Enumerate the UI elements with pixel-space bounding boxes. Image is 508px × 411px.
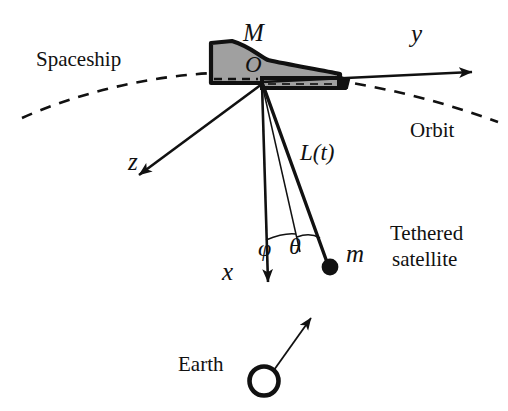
axis-x-label: x bbox=[222, 258, 233, 285]
angle-theta-label: θ bbox=[289, 234, 301, 260]
tether-length-label: L(t) bbox=[300, 141, 335, 166]
tethered-satellite-label-line2: satellite bbox=[392, 248, 457, 271]
axis-z-line bbox=[139, 84, 262, 175]
tethered-satellite-label-line1: Tethered bbox=[390, 222, 463, 245]
axis-z-label: z bbox=[128, 148, 138, 175]
orbit-label: Orbit bbox=[410, 119, 454, 142]
axis-y-label: y bbox=[411, 20, 422, 47]
satellite-mass-label: m bbox=[346, 240, 364, 267]
earth-circle-icon bbox=[250, 367, 279, 396]
angle-phi-label: φ bbox=[258, 236, 271, 262]
spaceship-mass-label: M bbox=[243, 19, 264, 46]
tethered-satellite-diagram: Spaceship M O y z x L(t) φ θ m Tethered … bbox=[0, 0, 508, 411]
spaceship-label: Spaceship bbox=[36, 48, 121, 71]
earth-label: Earth bbox=[178, 353, 223, 376]
origin-label: O bbox=[245, 53, 262, 78]
earth-direction-arrow bbox=[274, 318, 311, 370]
satellite-dot-icon bbox=[322, 259, 339, 276]
